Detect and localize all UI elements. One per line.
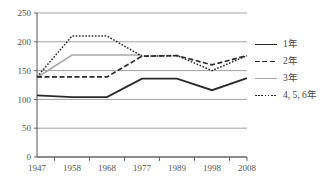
legend-item-4[interactable]: 4, 5, 6年 bbox=[255, 87, 330, 104]
y-tick-label: 100 bbox=[18, 95, 32, 105]
legend-swatch-1 bbox=[255, 40, 277, 49]
legend-line-sample bbox=[255, 95, 277, 97]
legend-item-label: 3年 bbox=[283, 74, 298, 84]
y-tick-label: 200 bbox=[18, 37, 32, 47]
x-tick-label: 1998 bbox=[203, 163, 222, 173]
series-line-2 bbox=[37, 56, 247, 77]
x-tick-label: 1968 bbox=[98, 163, 117, 173]
y-tick-label: 250 bbox=[18, 8, 32, 18]
y-tick-label: 150 bbox=[18, 66, 32, 76]
legend-item-2[interactable]: 2年 bbox=[255, 53, 330, 70]
legend-swatch-2 bbox=[255, 57, 277, 66]
y-tick-label: 50 bbox=[22, 123, 32, 133]
x-tick-label: 1977 bbox=[133, 163, 152, 173]
x-tick-label: 1958 bbox=[63, 163, 82, 173]
legend-line-sample bbox=[255, 78, 277, 80]
legend-item-3[interactable]: 3年 bbox=[255, 70, 330, 87]
chart-legend: 1年2年3年4, 5, 6年 bbox=[255, 36, 330, 104]
series-line-1 bbox=[37, 78, 247, 97]
legend-line-sample bbox=[255, 61, 277, 63]
legend-swatch-4 bbox=[255, 91, 277, 100]
x-tick-label: 1947 bbox=[28, 163, 47, 173]
legend-item-label: 4, 5, 6年 bbox=[283, 91, 317, 101]
y-tick-label: 0 bbox=[27, 152, 32, 162]
legend-item-label: 1年 bbox=[283, 40, 298, 50]
x-tick-label: 1989 bbox=[168, 163, 187, 173]
x-tick-label: 2008 bbox=[238, 163, 257, 173]
legend-line-sample bbox=[255, 44, 277, 46]
legend-swatch-3 bbox=[255, 74, 277, 83]
legend-item-label: 2年 bbox=[283, 57, 298, 67]
legend-item-1[interactable]: 1年 bbox=[255, 36, 330, 53]
